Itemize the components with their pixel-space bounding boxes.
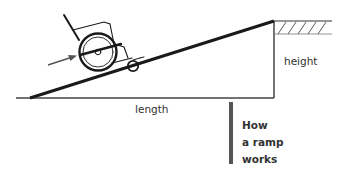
height-label: height [284, 56, 317, 67]
push-arrow-icon [48, 55, 77, 65]
wheelchair-icon [64, 15, 144, 71]
raised-ground-hatch [274, 21, 332, 34]
caption-line-1: How [242, 117, 283, 134]
diagram-caption: How a ramp works [242, 117, 283, 168]
caption-bar [229, 102, 233, 164]
length-label: length [135, 104, 168, 115]
caption-line-2: a ramp [242, 134, 283, 151]
caption-line-3: works [242, 151, 283, 168]
ramp-diagram [0, 0, 350, 170]
